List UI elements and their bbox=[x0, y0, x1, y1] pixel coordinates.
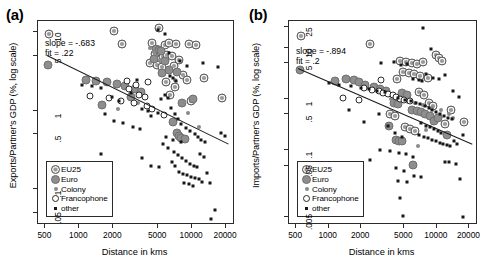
data-point-eu25 bbox=[460, 117, 469, 126]
data-point-other bbox=[425, 72, 428, 75]
y-tick-label: 25 bbox=[304, 21, 314, 43]
data-point-other bbox=[451, 90, 454, 93]
data-point-other bbox=[167, 146, 170, 149]
data-point-other bbox=[203, 141, 206, 144]
y-tick-label: .5 bbox=[304, 108, 314, 130]
x-tick-mark bbox=[157, 224, 158, 228]
data-point-eu25 bbox=[118, 39, 127, 48]
data-point-colony bbox=[152, 50, 156, 54]
legend-label: Francophone bbox=[61, 194, 108, 203]
data-point-other bbox=[136, 79, 139, 82]
legend-label: Euro bbox=[61, 175, 78, 184]
data-point-other bbox=[187, 183, 190, 186]
data-point-francophone bbox=[355, 97, 362, 104]
x-tick-label: 500 bbox=[27, 230, 61, 240]
figure-root: (a) Exports/Partner's GDP (%, log scale)… bbox=[0, 0, 486, 261]
data-point-other bbox=[172, 150, 175, 153]
data-point-other bbox=[185, 65, 188, 68]
data-point-other bbox=[427, 137, 430, 140]
data-point-other bbox=[219, 132, 222, 135]
data-point-other bbox=[157, 28, 160, 31]
data-point-other bbox=[419, 102, 422, 105]
data-point-other bbox=[429, 47, 432, 50]
data-point-eu25 bbox=[393, 75, 402, 84]
data-point-other bbox=[442, 143, 445, 146]
y-tick-mark bbox=[284, 149, 288, 150]
data-point-other bbox=[176, 154, 179, 157]
x-tick-label: 5000 bbox=[386, 230, 420, 240]
data-point-other bbox=[400, 63, 403, 66]
data-point-other bbox=[413, 174, 416, 177]
data-point-other bbox=[393, 131, 396, 134]
x-tick-label: 10000 bbox=[419, 230, 453, 240]
legend-item-eu25[interactable]: EU25 bbox=[50, 165, 108, 175]
y-tick-label: 10 bbox=[53, 26, 63, 48]
x-tick-label: 5000 bbox=[140, 230, 174, 240]
data-point-other bbox=[402, 215, 405, 218]
data-point-colony bbox=[166, 67, 170, 71]
data-point-other bbox=[448, 145, 451, 148]
legend-item-francophone[interactable]: Francophone bbox=[301, 194, 359, 204]
y-tick-label: .05 bbox=[53, 207, 63, 229]
data-point-other bbox=[183, 182, 186, 185]
data-point-francophone bbox=[124, 78, 131, 85]
legend-label: Colony bbox=[312, 185, 337, 194]
data-point-other bbox=[399, 196, 402, 199]
data-point-other bbox=[362, 121, 365, 124]
data-point-other bbox=[223, 134, 226, 137]
data-point-other bbox=[175, 80, 178, 83]
y-tick-mark bbox=[284, 26, 288, 27]
data-point-other bbox=[193, 176, 196, 179]
data-point-other bbox=[168, 74, 171, 77]
x-tick-mark bbox=[78, 224, 79, 228]
y-tick-mark bbox=[284, 165, 288, 166]
data-point-eu25 bbox=[200, 74, 209, 83]
data-point-other bbox=[423, 105, 426, 108]
data-point-other bbox=[167, 51, 170, 54]
data-point-other bbox=[99, 87, 102, 90]
data-point-other bbox=[389, 150, 392, 153]
data-point-other bbox=[411, 77, 414, 80]
panel-a: (a) Exports/Partner's GDP (%, log scale)… bbox=[0, 0, 243, 261]
x-tick-label: 500 bbox=[278, 230, 312, 240]
y-tick-mark bbox=[284, 62, 288, 63]
panel-b: (b) Imports/Partner's GDP (%, log scale)… bbox=[243, 0, 486, 261]
data-point-other bbox=[414, 101, 417, 104]
data-point-other bbox=[180, 122, 183, 125]
data-point-other bbox=[419, 176, 422, 179]
data-point-euro bbox=[157, 47, 166, 56]
y-tick-label: .1 bbox=[53, 183, 63, 205]
data-point-other bbox=[178, 60, 181, 63]
data-point-colony bbox=[186, 111, 190, 115]
legend-label: EU25 bbox=[312, 165, 332, 174]
data-point-francophone bbox=[141, 94, 148, 101]
eu25-marker-icon bbox=[50, 165, 61, 174]
x-tick-mark bbox=[436, 224, 437, 228]
y-tick-mark bbox=[33, 133, 37, 134]
data-point-other bbox=[129, 91, 132, 94]
data-point-other bbox=[170, 106, 173, 109]
data-point-other bbox=[422, 135, 425, 138]
data-point-other bbox=[122, 122, 125, 125]
data-point-other bbox=[379, 149, 382, 152]
other-marker-icon bbox=[301, 207, 312, 210]
data-point-francophone bbox=[145, 78, 152, 85]
data-point-other bbox=[427, 107, 430, 110]
y-tick-mark bbox=[33, 212, 37, 213]
legend-label: Euro bbox=[312, 175, 329, 184]
data-point-eu25 bbox=[183, 75, 192, 84]
data-point-colony bbox=[116, 107, 120, 111]
y-tick-mark bbox=[33, 110, 37, 111]
x-tick-label: 1000 bbox=[311, 230, 345, 240]
data-point-other bbox=[181, 157, 184, 160]
legend-item-colony[interactable]: Colony bbox=[301, 184, 359, 194]
data-point-other bbox=[179, 141, 182, 144]
data-point-other bbox=[403, 169, 406, 172]
data-point-other bbox=[368, 158, 371, 161]
data-point-other bbox=[138, 128, 141, 131]
data-point-eu25 bbox=[418, 57, 427, 66]
data-point-other bbox=[456, 143, 459, 146]
data-point-other bbox=[202, 61, 205, 64]
panel-b-plot-area: slope = -.894fit = .2EU25EuroColonyFranc… bbox=[288, 20, 477, 224]
data-point-other bbox=[160, 98, 163, 101]
